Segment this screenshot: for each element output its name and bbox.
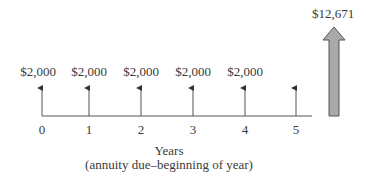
payment-amount-1: $2,000 xyxy=(71,64,107,80)
payment-amount-0: $2,000 xyxy=(20,64,56,80)
axis-title: Years xyxy=(154,144,183,157)
payment-amount-3: $2,000 xyxy=(175,64,211,80)
tick-label-3: 3 xyxy=(190,122,197,138)
payment-amount-2: $2,000 xyxy=(123,64,159,80)
payment-amount-4: $2,000 xyxy=(227,64,263,80)
tick-label-2: 2 xyxy=(138,122,145,138)
tick-label-0: 0 xyxy=(39,122,46,138)
tick-label-5: 5 xyxy=(293,122,300,138)
axis-subtitle: (annuity due–beginning of year) xyxy=(85,158,253,171)
tick-label-1: 1 xyxy=(86,122,93,138)
future-value-amount: $12,671 xyxy=(312,6,354,22)
future-value-arrow xyxy=(323,27,345,116)
tick-label-4: 4 xyxy=(242,122,249,138)
